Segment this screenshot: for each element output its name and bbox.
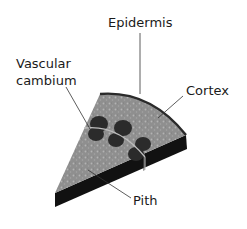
stem-wedge-illustration [0, 0, 247, 229]
label-cortex: Cortex [186, 83, 229, 98]
label-vascular-cambium-line2: cambium [16, 73, 77, 88]
label-vascular-cambium-line1: Vascular [16, 56, 71, 71]
cortex-leader-line [158, 96, 183, 118]
label-pith: Pith [133, 193, 158, 208]
label-epidermis: Epidermis [108, 15, 173, 30]
vascular-cambium-leader-line [66, 87, 90, 129]
